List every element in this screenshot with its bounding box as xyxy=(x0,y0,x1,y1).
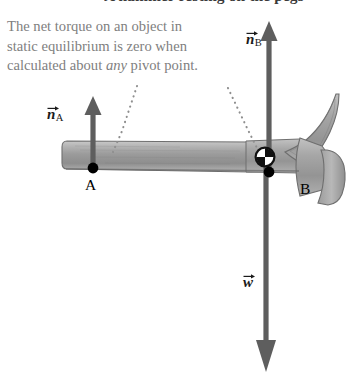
pivot-dot-b xyxy=(264,167,275,178)
label-point-a: A xyxy=(85,176,96,194)
w-arrowhead xyxy=(256,340,276,372)
label-point-b: B xyxy=(300,180,310,198)
force-vector-weight xyxy=(256,158,276,372)
center-of-mass-marker xyxy=(256,148,275,167)
n-b-arrowhead xyxy=(261,21,278,41)
pivot-dot-a xyxy=(88,163,99,174)
vector-arrow-n-b xyxy=(246,30,258,37)
vector-arrow-w xyxy=(243,273,255,280)
label-normal-force-a: nA xyxy=(47,106,63,123)
physics-figure: A hammer resting on the pegs The net tor… xyxy=(0,0,357,378)
label-n-b-subscript: B xyxy=(255,37,262,48)
vector-arrow-n-a xyxy=(47,105,59,112)
label-normal-force-b: nB xyxy=(246,31,262,48)
label-n-a-subscript: A xyxy=(56,112,64,123)
leader-line-right xyxy=(228,88,258,150)
label-weight: w xyxy=(243,274,253,291)
n-a-arrowhead xyxy=(85,96,102,115)
